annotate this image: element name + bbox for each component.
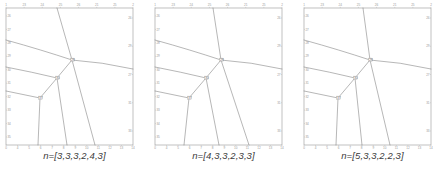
panel-1-axis-labels: 1232425262125204567891011121314262728293… [5, 3, 135, 150]
axis-tick-label: 28 [7, 41, 11, 45]
axis-tick-label: 26 [375, 3, 379, 7]
axis-tick-label: 31 [277, 101, 281, 105]
axis-tick-label: 30 [7, 68, 11, 72]
axis-tick-label: 23 [22, 3, 26, 7]
vertex-label: 30 [56, 76, 60, 80]
axis-tick-label: 27 [277, 73, 281, 77]
axis-tick-label: 25 [262, 3, 266, 7]
vertex-label: 37 [337, 96, 341, 100]
panel-2: 1232425262125204567891011121314262728293… [151, 0, 296, 176]
axis-tick-label: 29 [7, 54, 11, 58]
axis-tick-label: 24 [190, 3, 194, 7]
axis-tick-label: 33 [156, 108, 160, 112]
axis-tick-label: 34 [7, 122, 11, 126]
axis-tick-label: 21 [95, 3, 99, 7]
axis-tick-label: 26 [305, 14, 309, 18]
axis-tick-label: 25 [357, 3, 361, 7]
axis-tick-label: 26 [128, 16, 132, 20]
panel-2-svg: 1232425262125204567891011121314262728293… [151, 0, 296, 150]
panel-2-edges [155, 8, 282, 145]
axis-tick-label: 26 [7, 14, 11, 18]
axis-tick-label: 32 [156, 95, 160, 99]
axis-tick-label: 29 [305, 54, 309, 58]
axis-tick-label: 26 [226, 3, 230, 7]
axis-tick-label: 29 [277, 44, 281, 48]
axis-tick-label: 1 [154, 3, 156, 7]
axis-tick-label: 29 [128, 44, 132, 48]
vertex-label: 28 [220, 58, 224, 62]
axis-tick-label: 32 [305, 95, 309, 99]
axis-tick-label: 25 [208, 3, 212, 7]
axis-tick-label: 35 [7, 135, 11, 139]
axis-tick-label: 26 [426, 16, 430, 20]
axis-tick-label: 32 [7, 95, 11, 99]
axis-tick-label: 2 [132, 3, 134, 7]
axis-tick-label: 31 [426, 101, 430, 105]
axis-tick-label: 25 [113, 3, 117, 7]
panel-3: 1232425262125204567891011121314262728293… [300, 0, 445, 176]
axis-tick-label: 28 [305, 41, 309, 45]
vertex-label: 28 [369, 58, 373, 62]
axis-tick-label: 2 [281, 3, 283, 7]
figure-container: 1232425262125204567891011121314262728293… [0, 0, 447, 176]
axis-tick-label: 31 [128, 101, 132, 105]
axis-tick-label: 24 [339, 3, 343, 7]
axis-tick-label: 21 [393, 3, 397, 7]
axis-tick-label: 31 [156, 81, 160, 85]
panel-1-caption: n=[3,3,3,2,4,3] [2, 150, 147, 161]
axis-tick-label: 31 [305, 81, 309, 85]
axis-tick-label: 35 [156, 135, 160, 139]
panel-1-edges [6, 8, 133, 145]
axis-tick-label: 25 [59, 3, 63, 7]
axis-tick-label: 27 [7, 28, 11, 32]
axis-tick-label: 27 [156, 28, 160, 32]
panel-3-svg: 1232425262125204567891011121314262728293… [300, 0, 445, 150]
axis-tick-label: 23 [320, 3, 324, 7]
axis-tick-label: 1 [5, 3, 7, 7]
axis-tick-label: 30 [305, 68, 309, 72]
panel-2-axis-labels: 1232425262125204567891011121314262728293… [154, 3, 284, 150]
axis-tick-label: 29 [156, 54, 160, 58]
axis-tick-label: 33 [128, 129, 132, 133]
axis-tick-label: 26 [156, 14, 160, 18]
panel-2-frame [155, 8, 282, 145]
axis-tick-label: 33 [305, 108, 309, 112]
axis-tick-label: 34 [305, 122, 309, 126]
vertex-label: 37 [188, 96, 192, 100]
vertex-label: 37 [39, 96, 43, 100]
panel-1: 1232425262125204567891011121314262728293… [2, 0, 147, 176]
panel-1-svg: 1232425262125204567891011121314262728293… [2, 0, 147, 150]
axis-tick-label: 26 [77, 3, 81, 7]
axis-tick-label: 28 [156, 41, 160, 45]
axis-tick-label: 27 [128, 73, 132, 77]
axis-tick-label: 27 [305, 28, 309, 32]
panel-3-axis-labels: 1232425262125204567891011121314262728293… [303, 3, 433, 150]
axis-tick-label: 24 [41, 3, 45, 7]
panel-3-edges [304, 8, 431, 145]
axis-tick-label: 33 [277, 129, 281, 133]
axis-tick-label: 26 [277, 16, 281, 20]
axis-tick-label: 25 [411, 3, 415, 7]
vertex-label: 28 [71, 58, 75, 62]
axis-tick-label: 31 [7, 81, 11, 85]
axis-tick-label: 33 [426, 129, 430, 133]
panel-3-frame [304, 8, 431, 145]
axis-tick-label: 35 [305, 135, 309, 139]
axis-tick-label: 1 [303, 3, 305, 7]
axis-tick-label: 33 [7, 108, 11, 112]
vertex-label: 30 [354, 76, 358, 80]
axis-tick-label: 34 [156, 122, 160, 126]
panel-2-plot: 1232425262125204567891011121314262728293… [151, 0, 296, 150]
axis-tick-label: 23 [171, 3, 175, 7]
axis-tick-label: 21 [244, 3, 248, 7]
panel-2-caption: n=[4,3,3,2,3,3] [151, 150, 296, 161]
panel-1-frame [6, 8, 133, 145]
panel-3-caption: n=[5,3,3,2,2,3] [300, 150, 445, 161]
panel-1-plot: 1232425262125204567891011121314262728293… [2, 0, 147, 150]
axis-tick-label: 30 [156, 68, 160, 72]
axis-tick-label: 27 [426, 73, 430, 77]
vertex-label: 30 [205, 76, 209, 80]
panel-3-plot: 1232425262125204567891011121314262728293… [300, 0, 445, 150]
axis-tick-label: 29 [426, 44, 430, 48]
axis-tick-label: 2 [430, 3, 432, 7]
